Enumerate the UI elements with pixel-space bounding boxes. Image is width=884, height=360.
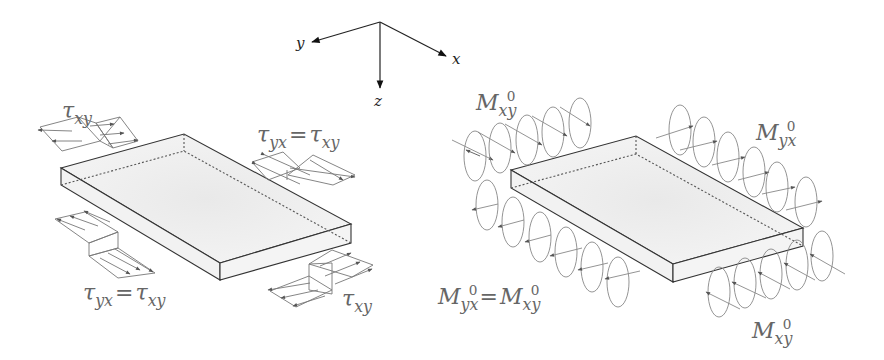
label-m-xy-bottom-right: Mxy0 [752,320,792,342]
x-axis-label: x [452,52,460,67]
x-axis-arrow [380,22,446,56]
y-axis-label: y [296,36,304,51]
label-tau-yx-eq-tau-xy-bottom-left: τyx=τxy [83,282,166,304]
label-m-xy-top-left: Mxy0 [476,92,516,114]
label-m-yx-eq-m-xy-bottom-left: Myx0=Mxy0 [438,286,540,308]
label-m-yx-top-right: Myx0 [756,122,796,144]
label-tau-yx-eq-tau-xy-top-right: τyx=τxy [257,124,340,146]
y-axis-arrow [312,22,380,42]
z-axis-label: z [374,94,382,109]
right-plate [511,136,803,282]
shear-block-top-right [252,152,355,185]
left-plate [61,134,351,280]
coordinate-axes [312,22,446,88]
plate-diagram: y x z τxy τyx=τxy τyx=τxy τxy Mxy0 Myx0 … [0,0,884,360]
label-tau-xy-bottom-right: τxy [342,288,372,310]
label-tau-xy-top-left: τxy [62,100,92,122]
